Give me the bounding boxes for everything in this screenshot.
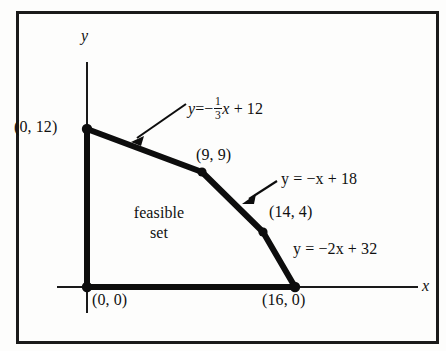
vertex-label-0-12: (0, 12)	[14, 119, 57, 136]
feasible-set-line1: feasible	[134, 204, 185, 221]
equation-label-neg-2x-plus-32: y = −2x + 32	[293, 241, 377, 258]
y-axis-label: y	[81, 28, 88, 45]
vertex-dot-14-4	[258, 227, 267, 236]
vertex-label-9-9: (9, 9)	[196, 147, 231, 164]
boundary-line-neg-2x-32	[263, 232, 295, 287]
vertex-dot-0-12	[82, 124, 92, 134]
boundary-line-1-over-3	[87, 129, 202, 172]
leader-arrow-line1	[131, 104, 186, 146]
equation1-numerator: 1	[214, 96, 222, 108]
figure-feasible-set: y x (0, 12) (9, 9) (14, 4) (16, 0) (0, 0…	[0, 0, 446, 351]
equation1-plus: +	[234, 100, 243, 117]
equation-label-slope-one-third: y=−13x + 12	[188, 96, 263, 121]
feasible-set-line2: set	[150, 224, 168, 241]
vertex-label-14-4: (14, 4)	[269, 204, 312, 221]
graph-canvas	[0, 0, 446, 351]
equation1-equals: =	[195, 100, 204, 117]
x-axis-label: x	[422, 278, 429, 295]
equation1-fraction: 13	[214, 96, 222, 121]
vertex-dot-0-0	[82, 282, 92, 292]
equation1-denominator: 3	[214, 108, 222, 121]
vertex-label-16-0: (16, 0)	[262, 292, 305, 309]
equation1-variable: x	[222, 100, 229, 117]
vertex-label-0-0: (0, 0)	[92, 292, 127, 309]
vertex-dot-9-9	[197, 167, 206, 176]
equation-label-neg-x-plus-18: y = −x + 18	[281, 171, 357, 188]
equation1-sign: −	[204, 100, 213, 117]
feasible-set-label: feasible set	[112, 203, 206, 242]
equation1-constant: 12	[247, 100, 263, 117]
leader-arrow-line2	[242, 181, 277, 204]
figure-border	[18, 13, 438, 343]
